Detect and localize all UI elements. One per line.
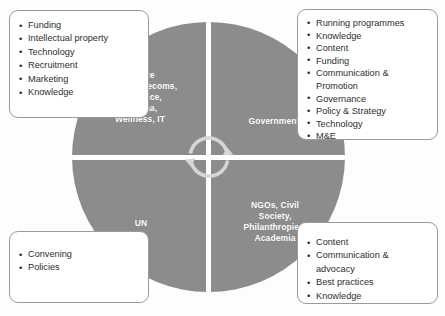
ngo-line-1: NGOs, Civil — [251, 200, 299, 210]
list-item: Governance — [307, 93, 428, 106]
list-item-label: Knowledge — [316, 31, 361, 41]
ngo-line-2: Society, — [259, 211, 292, 221]
list-item-label: Policy & Strategy — [316, 106, 386, 116]
list-item-label: Marketing — [28, 74, 68, 84]
list-item-label: Funding — [28, 20, 61, 30]
list-item-label: Policies — [28, 262, 60, 272]
list-item-label: Running programmes — [316, 18, 404, 28]
list-item: Best practices — [307, 276, 428, 289]
list-item: Running programmes — [307, 17, 428, 30]
list-item-continuation: advocacy — [316, 263, 428, 276]
list-item: Policies — [19, 261, 139, 274]
list-item: Recruitment — [19, 59, 139, 72]
ngo-line-4: Academia — [255, 233, 296, 243]
horizontal-divider — [72, 155, 345, 160]
list-item-label: Communication & — [316, 250, 389, 260]
un-list: Convening Policies — [19, 239, 139, 275]
list-item: Knowledge — [307, 30, 428, 43]
list-item-label: Content — [316, 43, 348, 53]
list-item-label: Best practices — [316, 277, 374, 287]
list-item: Communication & Promotion — [307, 67, 428, 92]
list-item-label: Governance — [316, 94, 366, 104]
list-item: Policy & Strategy — [307, 105, 428, 118]
list-item: Marketing — [19, 73, 139, 86]
list-item: M&E — [307, 130, 428, 143]
private-sector-list: Funding Intellectual property Technology… — [19, 18, 139, 99]
callout-box-private-sector: Funding Intellectual property Technology… — [9, 10, 149, 118]
list-item-label: Knowledge — [316, 291, 361, 301]
list-item: Knowledge — [19, 86, 139, 99]
list-item-label: Content — [316, 237, 348, 247]
diagram-canvas: Private Sector: Telecoms, Insurance, Pha… — [0, 0, 445, 316]
list-item-label: Knowledge — [28, 87, 73, 97]
list-item-label: Convening — [28, 249, 72, 259]
callout-box-un: Convening Policies — [9, 231, 149, 303]
list-item: Funding — [307, 55, 428, 68]
list-item-label: Funding — [316, 56, 349, 66]
list-item: Intellectual property — [19, 32, 139, 45]
list-item-label: Technology — [316, 119, 362, 129]
quadrant-label-un: UN — [82, 218, 200, 229]
list-item: Technology — [19, 46, 139, 59]
government-list: Running programmes Knowledge Content Fun… — [307, 17, 428, 143]
list-item: Communication & advocacy — [307, 249, 428, 276]
list-item: Funding — [19, 19, 139, 32]
list-item: Technology — [307, 118, 428, 131]
list-item: Convening — [19, 248, 139, 261]
list-item-label: M&E — [316, 131, 336, 141]
list-item-continuation: Promotion — [316, 80, 428, 93]
callout-box-ngos: Content Communication & advocacy Best pr… — [297, 222, 438, 304]
ngo-list: Content Communication & advocacy Best pr… — [307, 230, 428, 303]
callout-box-government: Running programmes Knowledge Content Fun… — [297, 9, 438, 140]
list-item-label: Communication & — [316, 68, 389, 78]
list-item: Content — [307, 236, 428, 249]
list-item: Content — [307, 42, 428, 55]
list-item-label: Recruitment — [28, 60, 78, 70]
list-item-label: Intellectual property — [28, 33, 108, 43]
list-item: Knowledge — [307, 290, 428, 303]
list-item-label: Technology — [28, 47, 74, 57]
